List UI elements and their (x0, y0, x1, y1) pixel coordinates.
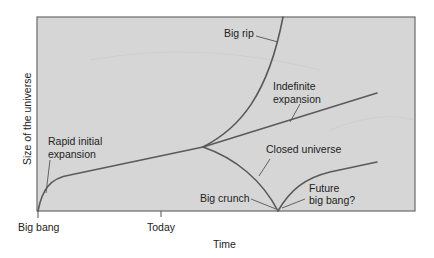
x-tick-label-today: Today (147, 221, 176, 233)
annotation-closed-universe: Closed universe (266, 143, 341, 155)
annotation-indefinite-expansion: Indefinite expansion (273, 80, 321, 105)
y-axis-label: Size of the universe (21, 73, 33, 165)
x-tick-label-big-bang: Big bang (18, 221, 60, 233)
universe-fate-diagram: Rapid initial expansion Big rip Indefini… (0, 0, 434, 258)
annotation-big-rip: Big rip (224, 27, 254, 39)
plot-area (37, 17, 415, 211)
x-axis-label: Time (213, 238, 236, 250)
annotation-big-crunch: Big crunch (200, 192, 250, 204)
